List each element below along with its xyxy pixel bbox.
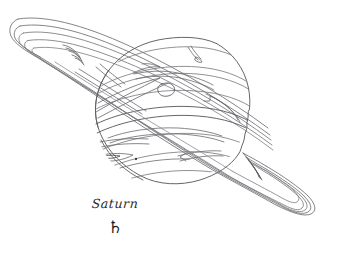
saturn-astronomical-symbol-icon: ♄ xyxy=(60,219,170,236)
ring-system-back xyxy=(18,18,273,150)
oval-storm-spot xyxy=(158,83,175,96)
small-marking-dot xyxy=(135,158,137,160)
figure-caption: Saturn ♄ xyxy=(60,198,170,236)
saturn-illustration xyxy=(0,0,345,270)
caption-planet-name: Saturn xyxy=(60,198,171,211)
saturn-globe xyxy=(95,37,257,183)
illustration-plate: Saturn ♄ xyxy=(0,0,345,270)
